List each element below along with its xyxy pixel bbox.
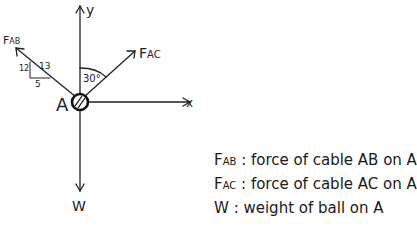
legend-row-fab: FAB : force of cable AB on A bbox=[214, 149, 417, 173]
angle-label: 30° bbox=[83, 73, 101, 84]
slope-hyp-label: 13 bbox=[39, 61, 50, 71]
legend-row-fac: FAC : force of cable AC on A bbox=[214, 173, 417, 197]
point-a-label: A bbox=[56, 94, 68, 115]
x-axis-label: x bbox=[186, 96, 193, 110]
slope-opp-label: 12 bbox=[19, 64, 29, 73]
legend-row-w: W : weight of ball on A bbox=[214, 197, 417, 219]
legend: FAB : force of cable AB on A FAC : force… bbox=[214, 149, 417, 219]
weight-label: W bbox=[72, 198, 86, 214]
fab-label: FAB bbox=[3, 34, 20, 47]
fac-label: FAC bbox=[139, 45, 161, 61]
ball-a bbox=[72, 94, 88, 110]
slope-adj-label: 5 bbox=[35, 79, 41, 89]
y-axis-label: y bbox=[86, 2, 94, 18]
